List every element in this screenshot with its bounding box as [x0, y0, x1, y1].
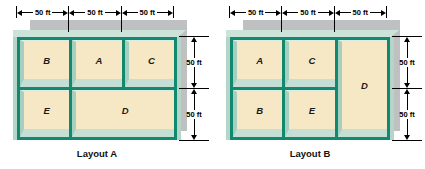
dimension-line — [22, 12, 33, 13]
figure-caption: Layout B — [226, 148, 394, 159]
dimension-tick — [386, 6, 387, 18]
dimension-line — [340, 12, 351, 13]
dimension-segment: 50 ft — [177, 37, 211, 88]
dimension-line — [194, 119, 195, 135]
dimension-line — [370, 12, 381, 13]
dimension-label: 50 ft — [138, 9, 157, 17]
dimension-line — [287, 12, 298, 13]
layout-b-room-c: C — [285, 40, 334, 87]
dimension-line — [127, 12, 138, 13]
dimension-segment: 50 ft — [177, 89, 211, 140]
figure-layout-a: 50 ft 50 ft 50 ft — [0, 0, 212, 169]
layout-a-room-d: D — [72, 90, 174, 137]
dimension-line — [235, 12, 246, 13]
layout-a-room-e: E — [20, 90, 69, 137]
figure-layout-b: 50 ft 50 ft 50 ft — [213, 0, 425, 169]
dimension-tick — [392, 140, 422, 141]
layout-a-room-b: B — [20, 40, 69, 87]
dimension-label: 50 ft — [399, 110, 414, 120]
dimension-line — [157, 12, 168, 13]
dimension-label: 50 ft — [186, 58, 201, 68]
dimension-label: 50 ft — [33, 9, 52, 17]
dimension-line — [74, 12, 85, 13]
dimension-line — [194, 42, 195, 58]
layout-b-room-e: E — [285, 90, 334, 137]
building-a: B A C E D — [13, 37, 181, 140]
dimension-line — [407, 42, 408, 58]
layout-b-room-d: D — [338, 40, 387, 137]
layout-b-room-a: A — [233, 40, 282, 87]
dimension-label: 50 ft — [246, 9, 265, 17]
dimension-tick — [179, 140, 209, 141]
top-dimension-line: 50 ft 50 ft 50 ft — [16, 6, 174, 32]
dimension-tick — [173, 6, 174, 18]
dimension-line — [194, 94, 195, 110]
dimension-line — [318, 12, 329, 13]
dimension-label: 50 ft — [186, 110, 201, 120]
dimension-line — [105, 12, 116, 13]
dimension-segment: 50 ft — [390, 37, 424, 88]
layout-b-room-b: B — [233, 90, 282, 137]
right-dimension-line: 50 ft 50 ft — [390, 36, 424, 141]
dimension-segment: 50 ft — [282, 6, 333, 19]
dimension-line — [265, 12, 276, 13]
floor-plan-comparison-diagram: 50 ft 50 ft 50 ft — [0, 0, 425, 169]
building-a-floorplan: B A C E D — [17, 37, 177, 140]
dimension-segment: 50 ft — [122, 6, 173, 19]
dimension-segment: 50 ft — [230, 6, 281, 19]
right-dimension-line: 50 ft 50 ft — [177, 36, 211, 141]
dimension-label: 50 ft — [399, 58, 414, 68]
building-b-floorplan: A C D B E — [230, 37, 390, 140]
layout-a-room-c: C — [125, 40, 174, 87]
figure-caption: Layout A — [13, 148, 181, 159]
dimension-segment: 50 ft — [69, 6, 120, 19]
dimension-line — [407, 67, 408, 83]
dimension-segment: 50 ft — [390, 89, 424, 140]
dimension-line — [194, 67, 195, 83]
dimension-line — [407, 119, 408, 135]
top-dimension-line: 50 ft 50 ft 50 ft — [229, 6, 387, 32]
dimension-line — [407, 94, 408, 110]
dimension-label: 50 ft — [298, 9, 317, 17]
dimension-segment: 50 ft — [17, 6, 68, 19]
dimension-label: 50 ft — [351, 9, 370, 17]
building-b: A C D B E — [226, 37, 394, 140]
dimension-line — [52, 12, 63, 13]
dimension-label: 50 ft — [85, 9, 104, 17]
dimension-segment: 50 ft — [335, 6, 386, 19]
layout-a-room-a: A — [72, 40, 121, 87]
